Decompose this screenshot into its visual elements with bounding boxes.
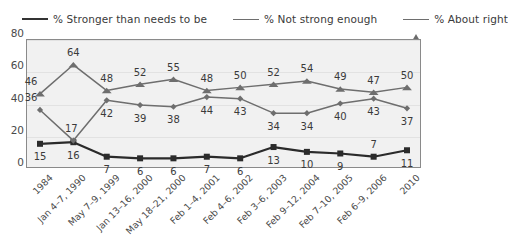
y-axis-tick: 80 bbox=[11, 27, 24, 39]
data-point-marker bbox=[371, 96, 377, 102]
data-label: 34 bbox=[301, 120, 314, 131]
legend-item-stronger[interactable]: % Stronger than needs to be bbox=[22, 13, 207, 25]
data-point-marker bbox=[68, 62, 78, 68]
data-point-marker bbox=[237, 96, 243, 102]
legend-item-about-right[interactable]: % About right bbox=[403, 13, 508, 25]
data-label: 55 bbox=[167, 61, 180, 72]
x-axis-tick: May 18–21, 2000 bbox=[124, 172, 188, 236]
data-label: 47 bbox=[367, 74, 380, 85]
series-line bbox=[40, 142, 407, 158]
data-label: 52 bbox=[134, 66, 147, 77]
data-point-marker bbox=[170, 104, 176, 110]
data-label: 54 bbox=[301, 63, 314, 74]
data-label: 48 bbox=[100, 73, 113, 84]
data-label: 50 bbox=[234, 69, 247, 80]
data-label: 10 bbox=[301, 159, 314, 170]
data-point-marker bbox=[104, 154, 110, 160]
data-label: 48 bbox=[200, 73, 213, 84]
series-line bbox=[40, 97, 407, 141]
data-point-marker bbox=[304, 149, 310, 155]
data-label: 39 bbox=[134, 112, 147, 123]
data-point-marker bbox=[371, 154, 377, 160]
data-label: 6 bbox=[237, 165, 243, 176]
data-label: 13 bbox=[267, 154, 280, 165]
data-point-marker bbox=[204, 154, 210, 160]
x-axis: 1984Jan 4–7, 1990May 7–9, 1999Jan 13–16,… bbox=[26, 168, 421, 245]
data-point-marker bbox=[204, 94, 210, 100]
data-label: 7 bbox=[104, 164, 110, 175]
data-point-marker bbox=[137, 155, 143, 161]
triangle-marker-icon bbox=[403, 13, 429, 25]
data-label: 42 bbox=[100, 107, 113, 118]
data-label: 40 bbox=[334, 111, 347, 122]
data-label: 49 bbox=[334, 71, 347, 82]
data-label: 7 bbox=[370, 139, 376, 150]
data-label: 15 bbox=[34, 151, 47, 162]
legend-label-stronger: % Stronger than needs to be bbox=[53, 13, 207, 25]
data-label: 11 bbox=[401, 157, 414, 168]
data-point-marker bbox=[337, 150, 343, 156]
diamond-marker-icon bbox=[233, 13, 259, 25]
data-label: 52 bbox=[267, 66, 280, 77]
data-label: 6 bbox=[170, 165, 176, 176]
chart-legend: % Stronger than needs to be % Not strong… bbox=[0, 8, 435, 30]
series-layer bbox=[26, 39, 421, 168]
data-label: 9 bbox=[337, 160, 343, 171]
x-axis-tick: 1984 bbox=[30, 172, 55, 197]
data-point-marker bbox=[337, 100, 343, 106]
data-point-marker bbox=[404, 105, 410, 111]
data-label: 17 bbox=[65, 123, 78, 134]
y-axis: 020406080 bbox=[0, 33, 24, 175]
data-label: 6 bbox=[137, 165, 143, 176]
y-axis-tick: 20 bbox=[11, 124, 24, 136]
data-label: 46 bbox=[25, 76, 38, 87]
data-label: 64 bbox=[67, 47, 80, 58]
data-label: 50 bbox=[401, 69, 414, 80]
data-point-marker bbox=[237, 155, 243, 161]
square-marker-icon bbox=[22, 13, 48, 25]
y-axis-tick: 0 bbox=[17, 156, 24, 168]
data-label: 7 bbox=[204, 164, 210, 175]
x-axis-tick: 2010 bbox=[397, 172, 422, 197]
series-line bbox=[40, 65, 407, 94]
legend-item-not-strong[interactable]: % Not strong enough bbox=[233, 13, 377, 25]
data-point-marker bbox=[304, 110, 310, 116]
y-axis-tick: 60 bbox=[11, 59, 24, 71]
y-axis-tick: 40 bbox=[11, 92, 24, 104]
data-point-marker bbox=[37, 141, 43, 147]
data-label: 43 bbox=[234, 106, 247, 117]
data-point-marker bbox=[170, 155, 176, 161]
data-label: 37 bbox=[401, 115, 414, 126]
legend-label-about-right: % About right bbox=[434, 13, 508, 25]
data-label: 34 bbox=[267, 120, 280, 131]
data-label: 38 bbox=[167, 114, 180, 125]
data-point-marker bbox=[404, 147, 410, 153]
data-point-marker bbox=[270, 110, 276, 116]
data-label: 44 bbox=[200, 104, 213, 115]
data-label: 43 bbox=[367, 106, 380, 117]
data-point-marker bbox=[137, 102, 143, 108]
legend-label-not-strong: % Not strong enough bbox=[264, 13, 377, 25]
data-label: 16 bbox=[67, 149, 80, 160]
data-point-marker bbox=[271, 144, 277, 150]
data-label: 36 bbox=[25, 92, 38, 103]
